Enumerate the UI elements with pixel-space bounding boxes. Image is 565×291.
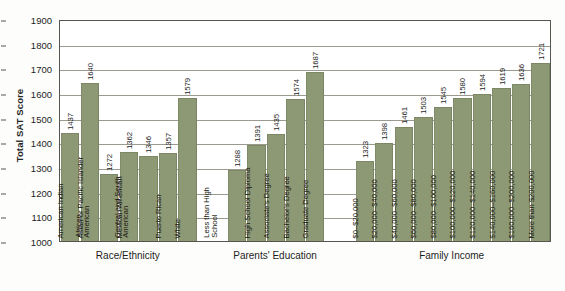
y-axis-tick-mark (1, 144, 6, 145)
bar-value-label: 1687 (311, 52, 320, 69)
bar-category-line: $0–$20,000 (352, 198, 360, 238)
bar-value-label: 1437 (66, 113, 75, 130)
bar-value-label: 1357 (163, 133, 172, 150)
bar-category-label: $100,000–$120,000 (450, 170, 458, 238)
y-axis-tick-mark (1, 45, 6, 46)
y-axis-tick-label: 1500 (6, 113, 52, 124)
bar-category-line: $160,000–$200,000 (508, 170, 516, 238)
bar-category-line: Bachelor's Degree (283, 176, 291, 238)
bar-category-label: American Indian (58, 183, 66, 238)
bar-category-label: AfricanAmerican (76, 206, 93, 238)
bar-value-label: 1574 (291, 79, 300, 96)
bar-category-line: $20,000–$40,000 (372, 179, 380, 238)
bar-category-line: $100,000–$120,000 (450, 170, 458, 238)
bar-category-line: Associate's Degree (263, 173, 271, 238)
bar-value-label: 1503 (419, 97, 428, 114)
y-axis-tick-mark (1, 119, 6, 120)
y-axis-tick-label: 1800 (6, 39, 52, 50)
bar-value-label: 1272 (105, 154, 114, 171)
bar-value-label: 1545 (438, 87, 447, 104)
bar-category-line: $60,000–$80,000 (411, 179, 419, 238)
bar-value-label: 1580 (458, 78, 467, 95)
bar-category-label: $40,000–$60,000 (391, 179, 399, 238)
y-axis-tick-label: 1700 (6, 64, 52, 75)
y-axis-tick-label: 1100 (6, 212, 52, 223)
bar-category-line: $140,000–$160,000 (489, 170, 497, 238)
bar-value-label: 1640 (85, 63, 94, 80)
bar-category-label: More than $200,000 (528, 170, 536, 238)
bar-category-line: American (123, 177, 131, 238)
y-axis-tick-label: 1000 (6, 237, 52, 248)
y-axis-tick-label: 1400 (6, 138, 52, 149)
bar-category-label: $20,000–$40,000 (372, 179, 380, 238)
bar-category-line: Graduate Degree (303, 179, 311, 238)
bar-category-line: American (84, 206, 92, 238)
bar-category-label: Bachelor's Degree (283, 176, 291, 238)
bar-value-label: 1391 (252, 125, 261, 142)
bar-value-label: 1398 (380, 123, 389, 140)
bar-category-label: $80,000–$100,000 (430, 175, 438, 238)
bar-value-label: 1461 (399, 107, 408, 124)
bar-category-line: High School Diploma (244, 167, 252, 238)
bars-container: 1437American Indian1640Asian or Pacific … (60, 21, 550, 241)
bar-category-line: American Indian (58, 183, 66, 238)
bar-category-line: $120,000–$140,000 (469, 170, 477, 238)
bar-value-label: 1435 (272, 114, 281, 131)
bar-value-label: 1721 (536, 43, 545, 60)
bar-value-label: 1619 (497, 68, 506, 85)
y-axis-tick-label: 1600 (6, 89, 52, 100)
bar-category-label: High School Diploma (244, 167, 252, 238)
bar-category-label: White (175, 219, 183, 238)
bar-category-label: $140,000–$160,000 (489, 170, 497, 238)
bar-category-label: Central and SouthAmerican (115, 177, 132, 238)
bar-slot[interactable]: 1721More than $200,000 (531, 19, 549, 241)
y-axis-tick-mark (1, 193, 6, 194)
bar-category-line: More than $200,000 (528, 170, 536, 238)
bar-slot[interactable]: 1687Graduate Degree (306, 19, 324, 241)
bar-value-label: 1579 (183, 78, 192, 95)
y-axis-tick-mark (1, 95, 6, 96)
bar-category-label: $0–$20,000 (352, 198, 360, 238)
y-axis-tick-label: 1200 (6, 187, 52, 198)
bar-category-line: $80,000–$100,000 (430, 175, 438, 238)
bar-value-label: 1288 (232, 150, 241, 167)
bar-slot[interactable]: 1357Puerto Rican (159, 19, 177, 241)
y-axis-tick-mark (1, 218, 6, 219)
y-axis-tick-mark (1, 21, 6, 22)
y-axis-tick-label: 1900 (6, 15, 52, 26)
sat-score-bar-chart: Total SAT Score 1437American Indian1640A… (0, 0, 565, 291)
bar-slot[interactable]: 1579White (178, 19, 196, 241)
bar-value-label: 1362 (124, 132, 133, 149)
group-label: Family Income (355, 250, 549, 261)
y-axis-tick-label: 1300 (6, 163, 52, 174)
bar-category-label: Less than HighSchool (203, 187, 220, 238)
bar-category-label: Puerto Rican (155, 194, 163, 238)
group-label: Parents' Education (227, 250, 324, 261)
bar-category-line: Puerto Rican (155, 194, 163, 238)
y-axis-tick-mark (1, 169, 6, 170)
bar-category-label: Graduate Degree (303, 179, 311, 238)
bar-value-label: 1323 (360, 141, 369, 158)
y-axis-tick-mark (1, 243, 6, 244)
bar-value-label: 1636 (517, 64, 526, 81)
bar-category-label: $120,000–$140,000 (469, 170, 477, 238)
bar-value-label: 1594 (477, 75, 486, 92)
bar-category-line: $40,000–$60,000 (391, 179, 399, 238)
bar-category-line: School (212, 187, 220, 238)
bar-category-line: White (175, 219, 183, 238)
bar-value-label: 1346 (144, 136, 153, 153)
plot-area: 1437American Indian1640Asian or Pacific … (59, 20, 551, 242)
bar-category-label: $160,000–$200,000 (508, 170, 516, 238)
group-label: Race/Ethnicity (60, 250, 196, 261)
y-axis-tick-mark (1, 70, 6, 71)
bar-category-label: Associate's Degree (263, 173, 271, 238)
bar-category-label: $60,000–$80,000 (411, 179, 419, 238)
